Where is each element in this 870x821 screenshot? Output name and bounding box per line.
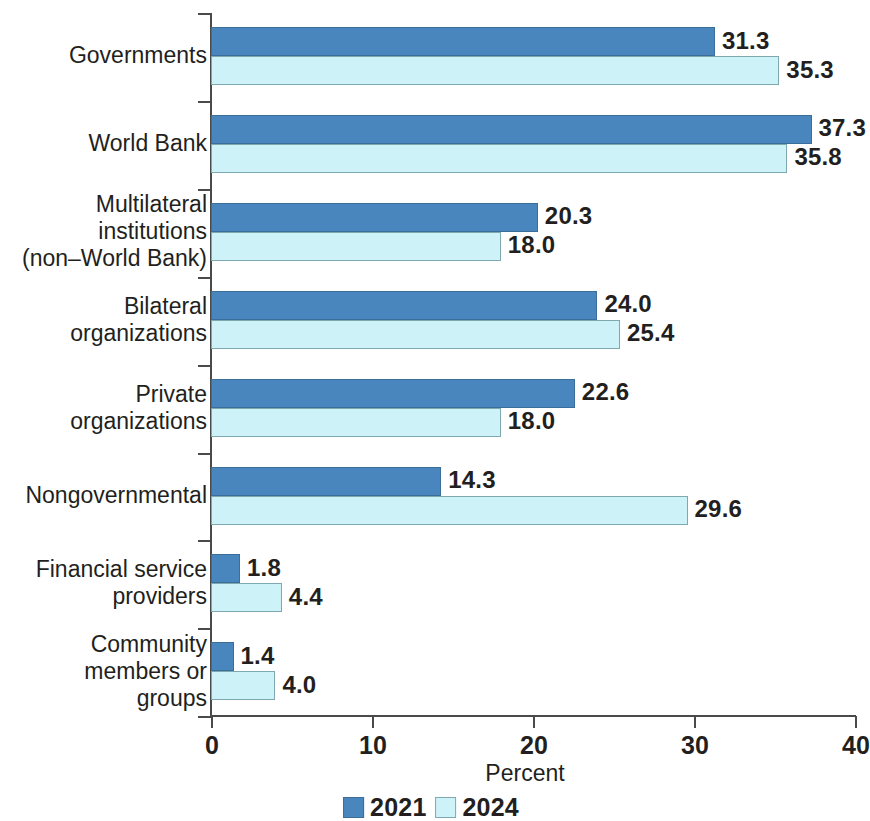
category-label: World Bank [89,130,207,157]
bar-value-label: 22.6 [582,378,630,406]
x-axis-tick [694,716,696,728]
legend-swatch-icon-2024 [436,797,457,818]
bar-value-label: 24.0 [604,290,652,318]
x-axis-tick-label: 40 [842,731,870,760]
y-axis-tick [198,365,211,367]
bar-2021 [211,27,715,56]
bar-2024 [211,56,779,85]
bar-value-label: 1.4 [241,642,275,670]
y-axis-tick [198,453,211,455]
category-label: Governments [69,42,207,69]
y-axis-tick [198,540,211,542]
category-label: Multilateral institutions (non–World Ban… [22,191,207,272]
legend-item-2021[interactable]: 2021 [343,793,426,821]
bar-2021 [211,115,812,144]
legend: 2021 2024 [343,793,519,821]
y-axis-tick [198,716,211,718]
x-axis-title: Percent [485,760,564,787]
x-axis-tick-label: 20 [520,731,548,760]
category-label: Nongovernmental [25,482,207,509]
bar-value-label: 4.4 [289,583,323,611]
bar-value-label: 1.8 [247,554,281,582]
x-axis-tick-label: 10 [359,731,387,760]
bar-value-label: 18.0 [508,407,556,435]
x-axis-tick [533,716,535,728]
bar-2024 [211,671,275,700]
bar-2021 [211,642,234,671]
legend-label-2021: 2021 [370,793,426,821]
x-axis-tick [211,716,213,728]
bar-value-label: 20.3 [545,202,593,230]
bar-2021 [211,467,441,496]
x-axis-tick-label: 0 [205,731,219,760]
legend-item-2024[interactable]: 2024 [436,793,519,821]
bar-value-label: 25.4 [627,319,675,347]
category-label: Private organizations [70,381,207,435]
bar-value-label: 37.3 [819,114,867,142]
bar-2024 [211,144,787,173]
x-axis-tick [372,716,374,728]
legend-label-2024: 2024 [463,793,519,821]
bar-value-label: 35.3 [786,56,834,84]
legend-swatch-icon-2021 [343,797,364,818]
bar-2021 [211,203,538,232]
bar-value-label: 18.0 [508,231,556,259]
bar-2024 [211,496,688,525]
y-axis-tick [198,13,211,15]
bar-value-label: 29.6 [695,495,743,523]
bar-2024 [211,232,501,261]
bar-2021 [211,291,597,320]
y-axis-tick [198,101,211,103]
bar-2024 [211,320,620,349]
bar-value-label: 14.3 [448,466,496,494]
bar-2021 [211,554,240,583]
bar-2024 [211,408,501,437]
category-label: Bilateral organizations [70,293,207,347]
bar-value-label: 31.3 [722,27,770,55]
y-axis-tick [198,277,211,279]
bar-2021 [211,379,575,408]
x-axis-tick-label: 30 [681,731,709,760]
bar-value-label: 4.0 [282,671,316,699]
category-label: Community members or groups [84,631,207,712]
category-label: Financial service providers [36,556,207,610]
bar-2024 [211,583,282,612]
x-axis-tick [855,716,857,728]
bar-value-label: 35.8 [794,143,842,171]
